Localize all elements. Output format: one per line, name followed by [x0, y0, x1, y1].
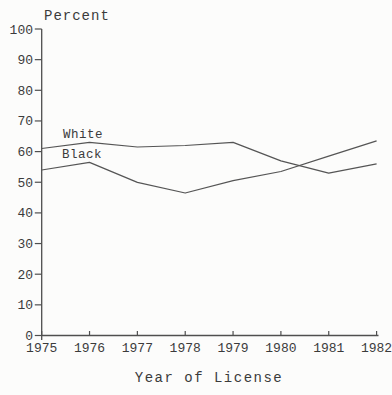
y-tick-label: 60: [17, 145, 33, 160]
y-tick-label: 10: [17, 298, 33, 313]
x-tick-label: 1980: [265, 341, 296, 356]
x-tick-label: 1976: [74, 341, 105, 356]
y-tick-label: 90: [17, 53, 33, 68]
y-tick-label: 80: [17, 84, 33, 99]
y-axis-ticks: 0102030405060708090100: [10, 23, 42, 345]
y-tick-label: 40: [17, 206, 33, 221]
axis-lines: [42, 29, 379, 340]
x-tick-label: 1978: [170, 341, 201, 356]
x-axis-ticks: 19751976197719781979198019811982: [26, 331, 392, 356]
x-tick-label: 1975: [26, 341, 57, 356]
y-tick-label: 100: [10, 23, 33, 38]
x-tick-label: 1977: [122, 341, 153, 356]
y-tick-label: 30: [17, 237, 33, 252]
chart-page: Percent Year of License 0102030405060708…: [0, 0, 392, 395]
x-axis-title: Year of License: [135, 370, 284, 386]
y-tick-label: 20: [17, 268, 33, 283]
x-tick-label: 1981: [313, 341, 344, 356]
line-chart: Percent Year of License 0102030405060708…: [0, 0, 392, 395]
y-tick-label: 70: [17, 114, 33, 129]
x-tick-label: 1979: [217, 341, 248, 356]
x-tick-label: 1982: [361, 341, 392, 356]
series-label-black: Black: [62, 148, 102, 162]
axes: [42, 29, 379, 340]
y-axis-title: Percent: [44, 8, 110, 24]
series-label-white: White: [63, 128, 103, 142]
y-tick-label: 50: [17, 176, 33, 191]
